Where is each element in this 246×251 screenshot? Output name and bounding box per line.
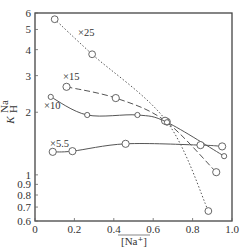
y-tick-label: 3 [26, 70, 32, 82]
data-point-marker [197, 142, 204, 149]
data-point-marker [135, 112, 140, 117]
x-tick-label: 0.2 [68, 223, 82, 235]
y-tick-label: 0.7 [17, 201, 31, 213]
series-line [67, 87, 217, 172]
data-point-marker [63, 83, 70, 90]
y-tick-label: 0.6 [17, 215, 31, 227]
series-2 [63, 83, 220, 176]
data-point-marker [222, 154, 227, 159]
y-tick-label: 0.8 [17, 189, 31, 201]
svg-text:Na: Na [0, 100, 10, 113]
x-tick-label: 0.8 [186, 223, 200, 235]
data-point-marker [112, 94, 119, 101]
y-tick-label: 6 [26, 7, 32, 19]
data-point-marker [205, 208, 212, 215]
series-label: ×10 [44, 100, 60, 111]
series-label: ×25 [78, 27, 94, 38]
data-point-marker [85, 112, 90, 117]
data-point-marker [48, 94, 53, 99]
series-label: ×5.5 [50, 138, 69, 149]
y-axis-title-text: KHNa [0, 100, 19, 125]
y-axis-title: KHNa [0, 100, 19, 125]
chart: 0.60.70.80.9123456 00.20.40.60.81.0 ×25×… [0, 0, 246, 251]
series-label: ×15 [63, 71, 79, 82]
y-tick-label: 1 [26, 169, 32, 181]
x-tick-label: 1.0 [225, 223, 239, 235]
series-4 [49, 140, 226, 155]
data-point-marker [51, 16, 58, 23]
series-layer [48, 16, 227, 215]
data-point-marker [69, 148, 76, 155]
y-tick-label: 4 [26, 44, 32, 56]
data-point-marker [89, 51, 96, 58]
data-point-marker [219, 143, 226, 150]
x-tick-label: 0.6 [146, 223, 160, 235]
axes-box [35, 13, 232, 221]
y-tick-label: 2 [26, 106, 32, 118]
y-tick-label: 5 [26, 23, 32, 35]
plot-frame [35, 13, 232, 221]
data-point-marker [49, 148, 56, 155]
data-point-marker [213, 169, 220, 176]
x-tick-label: 0.4 [107, 223, 121, 235]
data-point-marker [122, 140, 129, 147]
data-point-marker [164, 120, 169, 125]
x-tick-label: 0 [32, 223, 38, 235]
svg-text:K: K [4, 116, 16, 125]
x-axis-title: [Na⁺] [121, 235, 147, 247]
